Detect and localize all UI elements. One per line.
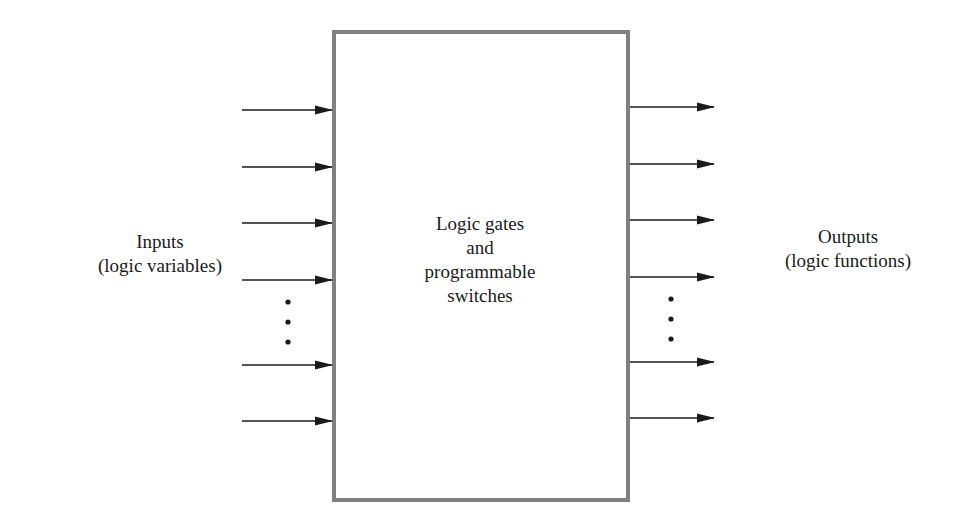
block-label-line-2: and	[360, 236, 600, 260]
inputs-label-line-2: (logic variables)	[80, 254, 240, 278]
block-label-line-3: programmable	[360, 260, 600, 284]
block-label-line-1: Logic gates	[360, 212, 600, 236]
output-arrows	[630, 107, 714, 418]
outputs-label-line-1: Outputs	[740, 225, 956, 249]
output-ellipsis-dots	[668, 296, 673, 341]
input-ellipsis-dots	[285, 299, 290, 344]
block-label-line-4: switches	[360, 284, 600, 308]
inputs-label-line-1: Inputs	[80, 230, 240, 254]
logic-block-label: Logic gates and programmable switches	[360, 212, 600, 308]
inputs-label: Inputs (logic variables)	[80, 230, 240, 278]
outputs-label: Outputs (logic functions)	[740, 225, 956, 273]
input-arrows	[242, 110, 332, 421]
outputs-label-line-2: (logic functions)	[740, 249, 956, 273]
